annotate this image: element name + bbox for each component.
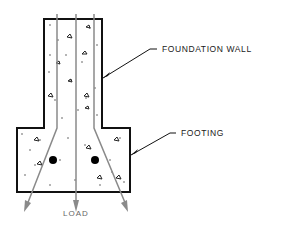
foundation-wall-label: FOUNDATION WALL <box>162 44 252 54</box>
footing <box>17 126 130 192</box>
footing-label: FOOTING <box>181 128 224 138</box>
rebar-right-icon <box>91 156 99 164</box>
foundation-diagram <box>0 0 281 229</box>
rebar-left-icon <box>49 156 57 164</box>
load-label: LOAD <box>63 209 89 218</box>
leader-arrow-icon <box>103 72 110 78</box>
